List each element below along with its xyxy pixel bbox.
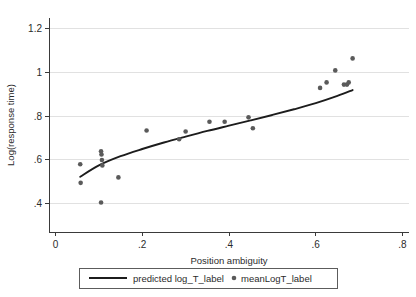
scatter-plot-with-fit: .4.6.811.20.2.4.6.8Position ambiguityLog… — [0, 0, 416, 297]
data-point — [100, 163, 105, 168]
data-point — [78, 162, 83, 167]
x-tick-label: .2 — [138, 239, 147, 250]
data-point — [207, 119, 212, 124]
data-point — [100, 158, 105, 163]
y-tick-label: .6 — [34, 154, 43, 165]
y-tick-label: .8 — [34, 111, 43, 122]
x-tick-label: .6 — [312, 239, 321, 250]
legend-marker-label: meanLogT_label — [241, 273, 312, 284]
data-point — [251, 126, 256, 131]
data-point — [246, 115, 251, 120]
data-point — [177, 137, 182, 142]
chart-figure: .4.6.811.20.2.4.6.8Position ambiguityLog… — [0, 0, 416, 297]
data-point — [144, 128, 149, 133]
x-tick-label: 0 — [53, 239, 59, 250]
data-point — [318, 86, 323, 91]
legend-marker-swatch — [232, 276, 237, 281]
data-point — [346, 80, 351, 85]
y-tick-label: 1 — [36, 67, 42, 78]
y-axis-ticks: .4.6.811.2 — [28, 23, 49, 209]
x-tick-label: .4 — [225, 239, 234, 250]
y-tick-label: .4 — [34, 198, 43, 209]
data-point — [183, 129, 188, 134]
data-point — [333, 68, 338, 73]
x-axis-ticks: 0.2.4.6.8 — [53, 232, 407, 250]
y-axis-title: Log(response time) — [5, 84, 16, 166]
gridlines — [49, 29, 409, 204]
scatter-points — [78, 56, 355, 205]
data-point — [78, 181, 83, 186]
legend: predicted log_T_labelmeanLogT_label — [79, 268, 337, 288]
x-axis-title: Position ambiguity — [190, 255, 267, 266]
data-point — [350, 56, 355, 61]
x-tick-label: .8 — [398, 239, 407, 250]
data-point — [99, 152, 104, 157]
legend-line-label: predicted log_T_label — [133, 273, 224, 284]
data-point — [116, 175, 121, 180]
data-point — [99, 200, 104, 205]
data-point — [324, 80, 329, 85]
predicted-fit-line — [80, 90, 352, 177]
y-tick-label: 1.2 — [28, 23, 42, 34]
data-point — [222, 119, 227, 124]
